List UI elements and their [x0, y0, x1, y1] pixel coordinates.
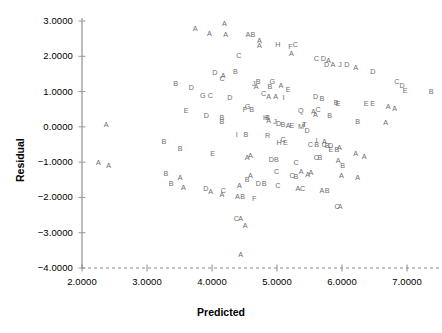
y-tick-label: 3.0000 — [0, 15, 73, 26]
y-tick-label: 2.0000 — [0, 50, 73, 61]
y-tick-label: −3.0000 — [0, 227, 73, 238]
y-axis-title: Residual — [14, 138, 26, 182]
y-tick-label: −4.0000 — [0, 262, 73, 273]
y-tick-label: 0.0000 — [0, 121, 73, 132]
y-tick-label: 1.0000 — [0, 86, 73, 97]
x-axis-title: Predicted — [0, 306, 442, 318]
residual-plot: AAAAABAAHFCCACDAADJDADACBDBDJBAGBAECDEBG… — [0, 0, 442, 333]
x-tick-label: 7.0000 — [367, 276, 442, 287]
tick-labels-layer: 3.00002.00001.00000.0000−1.0000−2.0000−3… — [0, 0, 442, 333]
y-tick-label: −2.0000 — [0, 191, 73, 202]
y-tick-label: −1.0000 — [0, 156, 73, 167]
